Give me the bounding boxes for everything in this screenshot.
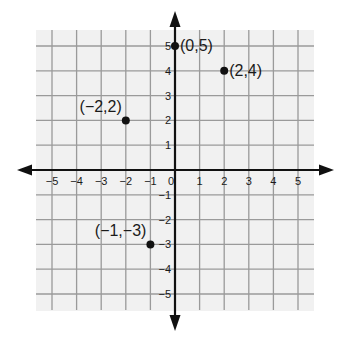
x-tick-label: −5 xyxy=(46,175,59,187)
x-tick-label: 0 xyxy=(168,175,174,187)
point-label: (−2,2) xyxy=(80,98,122,115)
x-axis-left-arrow-icon xyxy=(17,165,32,176)
y-axis-up-arrow-icon xyxy=(170,11,181,27)
x-tick-label: −1 xyxy=(144,175,157,187)
y-tick-label: 1 xyxy=(165,139,171,151)
y-tick-label: 3 xyxy=(165,90,171,102)
x-tick-label: −2 xyxy=(120,175,133,187)
y-tick-label: 4 xyxy=(165,65,171,77)
x-tick-label: 5 xyxy=(295,175,301,187)
y-axis-down-arrow-icon xyxy=(170,315,181,331)
y-tick-label: −2 xyxy=(158,214,171,226)
x-tick-label: −3 xyxy=(95,175,108,187)
y-tick-label: −1 xyxy=(158,189,171,201)
data-point xyxy=(146,240,154,248)
x-tick-label: 3 xyxy=(246,175,252,187)
y-tick-label: 2 xyxy=(165,114,171,126)
coordinate-plane: −5−4−3−2−1012345 −5−4−3−2−112345 (0,5)(2… xyxy=(0,0,350,341)
point-label: (0,5) xyxy=(180,37,213,54)
y-tick-label: −5 xyxy=(158,288,171,300)
x-tick-label: 2 xyxy=(221,175,227,187)
y-tick-label: −4 xyxy=(158,263,171,275)
x-tick-label: −4 xyxy=(70,175,83,187)
x-axis-right-arrow-icon xyxy=(319,165,334,176)
x-tick-label: 4 xyxy=(270,175,276,187)
data-point xyxy=(122,116,130,124)
data-point xyxy=(171,42,179,50)
data-point xyxy=(220,67,228,75)
y-tick-label: 5 xyxy=(165,40,171,52)
point-label: (−1,−3) xyxy=(95,222,147,239)
y-tick-label: −3 xyxy=(158,238,171,250)
point-label: (2,4) xyxy=(229,62,262,79)
x-tick-label: 1 xyxy=(197,175,203,187)
